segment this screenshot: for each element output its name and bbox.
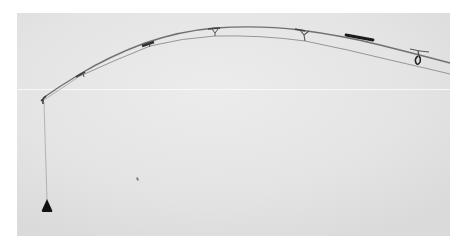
fishing-rod-photo: Grayscale photograph of a fishing rod be…	[0, 0, 469, 249]
photo-canvas	[0, 0, 469, 249]
